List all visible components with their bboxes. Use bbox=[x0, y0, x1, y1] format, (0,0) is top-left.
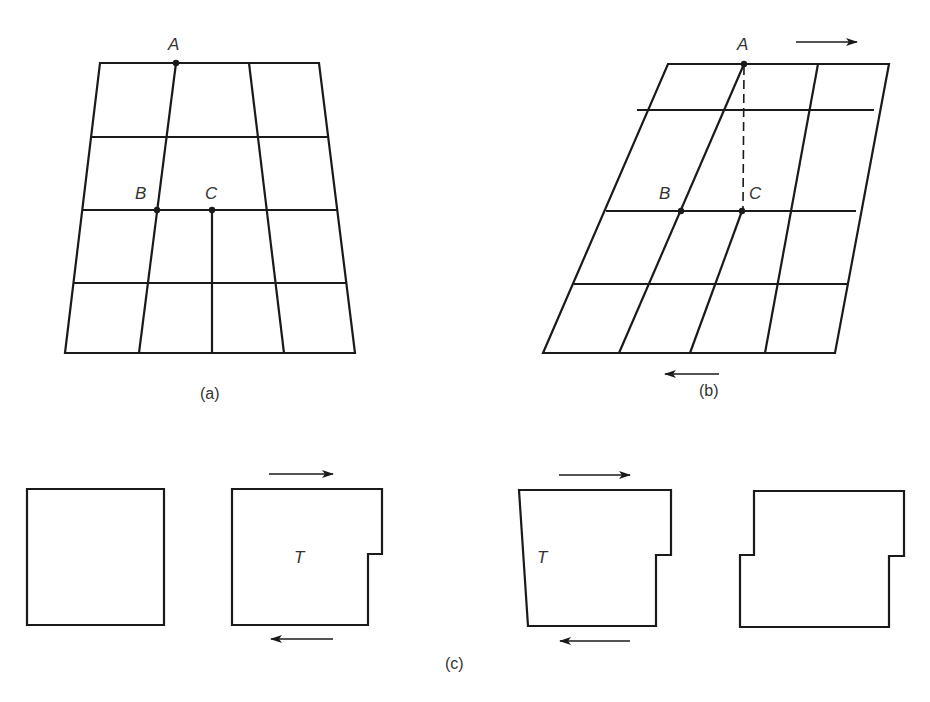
label-b: B bbox=[135, 184, 146, 203]
caption-a: (a) bbox=[200, 385, 220, 402]
grid-column-line bbox=[690, 211, 742, 353]
shape-notched-right bbox=[232, 489, 382, 625]
point-b bbox=[678, 208, 684, 214]
label-t: T bbox=[294, 548, 306, 567]
label-a: A bbox=[736, 35, 748, 54]
point-b bbox=[154, 207, 160, 213]
label-c: C bbox=[205, 184, 218, 203]
label-t: T bbox=[537, 548, 549, 567]
caption-b: (b) bbox=[699, 382, 719, 399]
point-a bbox=[173, 60, 179, 66]
shape-notched-both bbox=[740, 491, 904, 627]
caption-c: (c) bbox=[445, 655, 464, 672]
label-b: B bbox=[659, 184, 670, 203]
dashed-line-ac bbox=[743, 66, 744, 209]
grid-column-line bbox=[249, 63, 284, 353]
panel-c: T T (c) bbox=[27, 474, 904, 672]
point-a bbox=[741, 61, 747, 67]
label-a: A bbox=[167, 35, 179, 54]
panel-b: A B C (b) bbox=[543, 35, 889, 399]
label-c: C bbox=[749, 184, 762, 203]
shape-square bbox=[27, 489, 164, 625]
panel-a: A B C (a) bbox=[65, 35, 355, 402]
grid-column-line bbox=[765, 64, 818, 353]
point-c bbox=[209, 207, 215, 213]
grid-outline bbox=[543, 64, 889, 353]
figure-canvas: A B C (a) A B C (b) T bbox=[0, 0, 930, 702]
point-c bbox=[739, 208, 745, 214]
